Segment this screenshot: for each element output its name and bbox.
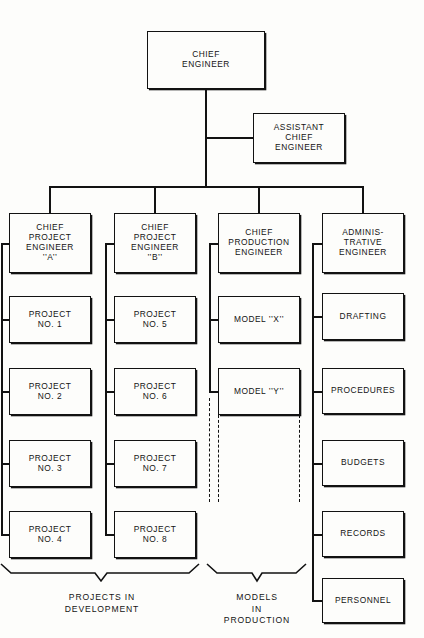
bracket-models-in-production (204, 560, 310, 588)
node-records[interactable]: RECORDS (322, 511, 404, 557)
connector-stub-col4-row2 (312, 391, 322, 393)
node-drafting[interactable]: DRAFTING (322, 293, 404, 340)
node-label: CHIEF PROJECT ENGINEER ’’A’’ (24, 223, 76, 263)
node-model-y[interactable]: MODEL ’’Y’’ (218, 368, 300, 415)
connector-assistant-stub (205, 137, 254, 139)
node-chief-project-engineer-a[interactable]: CHIEF PROJECT ENGINEER ’’A’’ (9, 213, 91, 273)
node-label: ASSISTANT CHIEF ENGINEER (272, 123, 326, 153)
connector-stub-col2-row1 (105, 319, 114, 321)
caption-projects-in-development: PROJECTS IN DEVELOPMENT (18, 592, 186, 615)
node-label: MODEL ’’X’’ (232, 315, 286, 325)
connector-stub-col4-row3 (312, 463, 322, 465)
node-project-2[interactable]: PROJECT NO. 2 (9, 368, 91, 415)
connector-stub-col2-row4 (105, 534, 114, 536)
node-label: BUDGETS (339, 458, 387, 468)
connector-drop-col4 (362, 186, 364, 213)
node-label: CHIEF ENGINEER (180, 50, 232, 70)
node-label: PROJECT NO. 3 (27, 454, 74, 474)
connector-stub-col4-row4 (312, 534, 322, 536)
node-label: PROJECT NO. 7 (132, 454, 179, 474)
node-label: PROJECT NO. 8 (132, 525, 179, 545)
node-assistant-chief-engineer[interactable]: ASSISTANT CHIEF ENGINEER (253, 113, 345, 163)
node-project-4[interactable]: PROJECT NO. 4 (9, 511, 91, 558)
connector-spine-col3 (209, 243, 211, 391)
node-procedures[interactable]: PROCEDURES (322, 368, 404, 414)
node-label: RECORDS (338, 529, 387, 539)
node-label: PERSONNEL (333, 596, 393, 606)
connector-drop-col2 (154, 186, 156, 213)
connector-stub-col3-head (209, 243, 218, 245)
connector-stub-col3-row1 (209, 319, 218, 321)
node-administrative-engineer[interactable]: ADMINIS- TRATIVE ENGINEER (322, 213, 404, 273)
node-label: PROJECT NO. 4 (27, 525, 74, 545)
node-model-x[interactable]: MODEL ’’X’’ (218, 296, 300, 343)
connector-horizontal-bus (49, 186, 364, 188)
connector-spine-col2 (105, 243, 107, 535)
node-label: CHIEF PROJECT ENGINEER ’’B’’ (129, 223, 181, 263)
connector-spine-col3-dashed (209, 398, 210, 502)
node-label: PROJECT NO. 5 (132, 310, 179, 330)
node-project-7[interactable]: PROJECT NO. 7 (114, 440, 196, 487)
connector-stub-col2-row2 (105, 391, 114, 393)
node-chief-production-engineer[interactable]: CHIEF PRODUCTION ENGINEER (218, 213, 300, 273)
node-label: MODEL ’’Y’’ (232, 387, 286, 397)
connector-stub-col1-row2 (1, 391, 9, 393)
node-chief-project-engineer-b[interactable]: CHIEF PROJECT ENGINEER ’’B’’ (114, 213, 196, 273)
connector-stub-col1-row3 (1, 463, 9, 465)
node-project-1[interactable]: PROJECT NO. 1 (9, 296, 91, 343)
connector-stub-col4-row1 (312, 316, 322, 318)
org-chart-diagram: CHIEF ENGINEER ASSISTANT CHIEF ENGINEER … (0, 0, 424, 638)
connector-stub-col2-row3 (105, 463, 114, 465)
caption-models-in-production: MODELS IN PRODUCTION (208, 592, 306, 627)
node-project-8[interactable]: PROJECT NO. 8 (114, 511, 196, 558)
node-label: PROJECT NO. 1 (27, 310, 74, 330)
node-label: CHIEF PRODUCTION ENGINEER (226, 228, 291, 258)
node-budgets[interactable]: BUDGETS (322, 440, 404, 486)
node-project-6[interactable]: PROJECT NO. 6 (114, 368, 196, 415)
node-personnel[interactable]: PERSONNEL (322, 578, 404, 623)
connector-spine-col1 (1, 243, 3, 535)
connector-drop-col1 (49, 186, 51, 213)
connector-drop-col3 (258, 186, 260, 213)
node-project-5[interactable]: PROJECT NO. 5 (114, 296, 196, 343)
node-chief-engineer[interactable]: CHIEF ENGINEER (147, 31, 265, 89)
node-label: DRAFTING (338, 312, 389, 322)
node-label: PROCEDURES (329, 386, 397, 396)
connector-stub-col1-head (1, 243, 9, 245)
node-label: ADMINIS- TRATIVE ENGINEER (337, 228, 389, 258)
connector-stub-col1-row4 (1, 534, 9, 536)
connector-stub-col4-head (312, 243, 322, 245)
node-label: PROJECT NO. 2 (27, 382, 74, 402)
connector-stub-col2-head (105, 243, 114, 245)
connector-spine-col4 (312, 243, 314, 601)
connector-stub-col1-row1 (1, 319, 9, 321)
node-label: PROJECT NO. 6 (132, 382, 179, 402)
bracket-projects-in-development (0, 560, 204, 588)
connector-stub-col3-row2 (209, 391, 218, 393)
node-project-3[interactable]: PROJECT NO. 3 (9, 440, 91, 487)
placeholder-additional-models (218, 415, 300, 502)
connector-stub-col4-row5 (312, 600, 322, 602)
